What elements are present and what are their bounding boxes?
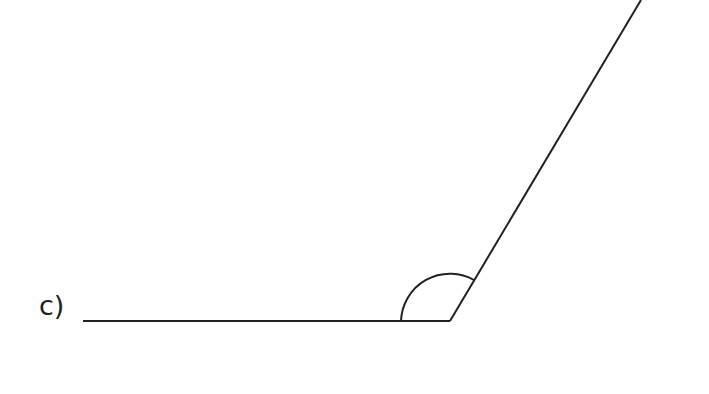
angle-diagram <box>0 0 709 394</box>
inclined-ray <box>450 0 641 321</box>
